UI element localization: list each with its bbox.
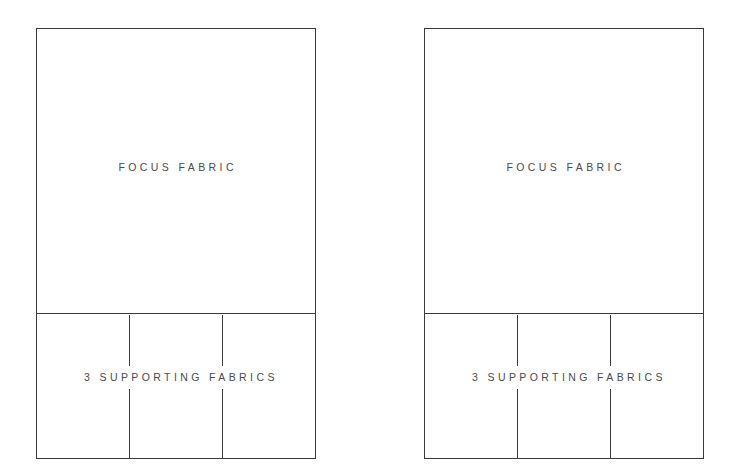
fabric-layout-panel-right: FOCUS FABRIC 3 SUPPORTING FABRICS: [424, 28, 704, 459]
supporting-fabrics-label-right: 3 SUPPORTING FABRICS: [425, 366, 703, 389]
focus-fabric-region-right: FOCUS FABRIC: [425, 29, 703, 314]
supporting-fabrics-label-text: 3 SUPPORTING FABRICS: [459, 366, 673, 389]
focus-fabric-region-left: FOCUS FABRIC: [37, 29, 315, 314]
focus-fabric-label-left: FOCUS FABRIC: [37, 162, 315, 173]
focus-fabric-label-right: FOCUS FABRIC: [425, 162, 703, 173]
supporting-fabrics-region-right: 3 SUPPORTING FABRICS: [425, 315, 703, 458]
diagram-canvas: FOCUS FABRIC 3 SUPPORTING FABRICS FOCUS …: [0, 0, 742, 472]
supporting-fabrics-label-left: 3 SUPPORTING FABRICS: [37, 366, 315, 389]
fabric-layout-panel-left: FOCUS FABRIC 3 SUPPORTING FABRICS: [36, 28, 316, 459]
supporting-fabrics-region-left: 3 SUPPORTING FABRICS: [37, 315, 315, 458]
supporting-fabrics-label-text: 3 SUPPORTING FABRICS: [71, 366, 285, 389]
